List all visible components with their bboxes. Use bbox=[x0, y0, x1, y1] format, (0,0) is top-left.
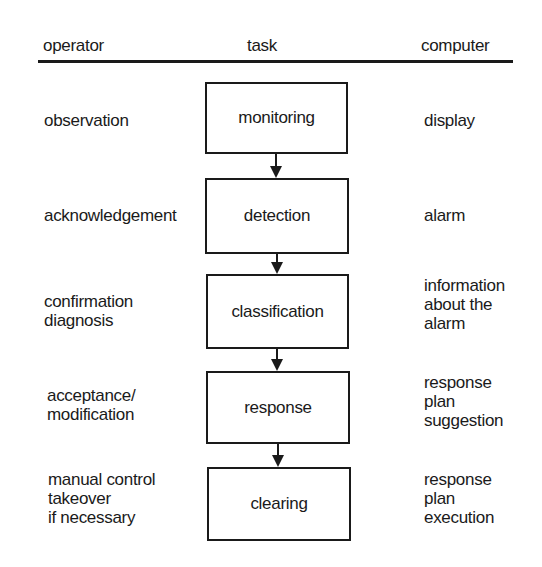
operator-task-computer-diagram: operator task computer observation monit… bbox=[0, 0, 542, 567]
task-label: clearing bbox=[250, 494, 307, 514]
operator-cell-2: acknowledgement bbox=[44, 206, 177, 225]
operator-line: acknowledgement bbox=[44, 206, 177, 225]
column-header-task: task bbox=[247, 36, 277, 56]
computer-cell-5: response plan execution bbox=[424, 470, 494, 527]
task-label: monitoring bbox=[238, 108, 314, 128]
operator-line: manual control bbox=[48, 470, 155, 489]
computer-line: response bbox=[424, 373, 503, 392]
operator-line: if necessary bbox=[48, 508, 155, 527]
flow-arrow-icon bbox=[272, 444, 284, 467]
task-box-monitoring: monitoring bbox=[205, 82, 348, 154]
computer-line: information bbox=[424, 276, 505, 295]
operator-cell-5: manual control takeover if necessary bbox=[48, 470, 155, 527]
operator-line: acceptance/ bbox=[47, 386, 135, 405]
computer-line: alarm bbox=[424, 314, 505, 333]
task-box-detection: detection bbox=[205, 178, 349, 254]
computer-line: plan bbox=[424, 392, 503, 411]
flow-arrow-icon bbox=[271, 349, 283, 371]
operator-cell-4: acceptance/ modification bbox=[47, 386, 135, 424]
flow-arrow-icon bbox=[270, 154, 282, 178]
column-header-computer: computer bbox=[421, 36, 489, 56]
operator-line: diagnosis bbox=[44, 311, 133, 330]
computer-line: response bbox=[424, 470, 494, 489]
task-box-clearing: clearing bbox=[207, 467, 351, 541]
computer-line: about the bbox=[424, 295, 505, 314]
computer-line: display bbox=[424, 111, 475, 130]
task-box-classification: classification bbox=[206, 274, 349, 349]
operator-line: observation bbox=[44, 111, 129, 130]
task-label: detection bbox=[244, 206, 310, 226]
computer-cell-3: information about the alarm bbox=[424, 276, 505, 333]
flow-arrow-icon bbox=[271, 254, 283, 274]
task-label: response bbox=[244, 398, 312, 418]
computer-line: suggestion bbox=[424, 411, 503, 430]
operator-cell-1: observation bbox=[44, 111, 129, 130]
header-divider bbox=[38, 60, 513, 63]
computer-line: alarm bbox=[424, 206, 465, 225]
computer-cell-2: alarm bbox=[424, 206, 465, 225]
operator-line: modification bbox=[47, 405, 135, 424]
operator-line: confirmation bbox=[44, 292, 133, 311]
operator-cell-3: confirmation diagnosis bbox=[44, 292, 133, 330]
operator-line: takeover bbox=[48, 489, 155, 508]
task-box-response: response bbox=[206, 371, 350, 444]
computer-cell-1: display bbox=[424, 111, 475, 130]
computer-line: execution bbox=[424, 508, 494, 527]
computer-line: plan bbox=[424, 489, 494, 508]
task-label: classification bbox=[231, 302, 323, 322]
computer-cell-4: response plan suggestion bbox=[424, 373, 503, 430]
column-header-operator: operator bbox=[43, 36, 104, 56]
